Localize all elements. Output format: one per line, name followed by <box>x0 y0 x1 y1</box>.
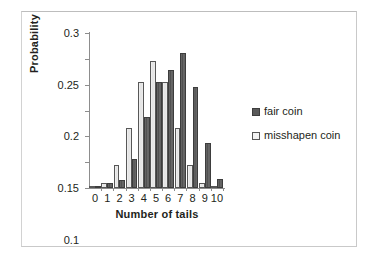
x-tick-label: 8 <box>189 193 195 204</box>
bar-fair-coin <box>107 183 113 188</box>
x-tick-label: 6 <box>165 193 171 204</box>
x-tick <box>174 188 175 191</box>
legend-swatch-icon-misshapen-coin <box>252 132 260 140</box>
x-axis-title: Number of tails <box>89 208 225 220</box>
y-tick-label: 0.2 <box>64 131 79 142</box>
x-tick <box>150 188 151 191</box>
x-tick <box>101 188 102 191</box>
legend-swatch-icon-fair-coin <box>252 108 260 116</box>
bar-fair-coin <box>193 87 199 188</box>
y-tick: 0.05 <box>85 162 89 163</box>
y-tick-label: 0.3 <box>64 28 79 39</box>
x-tick-label: 0 <box>92 193 98 204</box>
x-tick <box>211 188 212 191</box>
plot-area: 00.050.10.150.20.250.3 012345678910 <box>89 33 223 188</box>
y-tick: 0.3 <box>85 33 89 34</box>
y-axis-title: Probability <box>28 14 40 73</box>
bar-fair-coin <box>217 179 223 188</box>
bar-fair-coin <box>144 117 150 188</box>
x-tick-label: 3 <box>129 193 135 204</box>
y-tick: 0.25 <box>85 59 89 60</box>
bar-fair-coin <box>132 159 138 188</box>
legend-item-misshapen-coin: misshapen coin <box>252 130 340 141</box>
chart-figure: 00.050.10.150.20.250.3 012345678910 Prob… <box>0 0 379 263</box>
bar-fair-coin <box>119 180 125 188</box>
x-tick <box>223 188 224 191</box>
x-tick <box>162 188 163 191</box>
x-tick <box>186 188 187 191</box>
chart-legend: fair coin misshapen coin <box>252 106 340 154</box>
x-tick-label: 9 <box>202 193 208 204</box>
bar-fair-coin <box>95 186 101 188</box>
legend-label-misshapen-coin: misshapen coin <box>264 130 340 141</box>
x-tick <box>126 188 127 191</box>
x-tick <box>138 188 139 191</box>
x-tick <box>199 188 200 191</box>
x-tick-label: 4 <box>141 193 147 204</box>
bar-fair-coin <box>168 70 174 188</box>
x-axis-line <box>89 188 225 189</box>
y-tick-label: 0.15 <box>58 183 79 194</box>
y-tick: 0.15 <box>85 111 89 112</box>
y-tick-label: 0.25 <box>58 79 79 90</box>
x-tick-label: 10 <box>211 193 223 204</box>
y-tick: 0.1 <box>85 136 89 137</box>
y-tick: 0.2 <box>85 85 89 86</box>
x-tick-label: 7 <box>177 193 183 204</box>
bar-fair-coin <box>180 53 186 188</box>
x-tick-label: 2 <box>116 193 122 204</box>
legend-item-fair-coin: fair coin <box>252 106 340 117</box>
legend-label-fair-coin: fair coin <box>264 106 303 117</box>
bar-fair-coin <box>156 82 162 188</box>
y-tick: 0 <box>85 188 89 189</box>
bar-fair-coin <box>205 143 211 188</box>
x-tick-label: 5 <box>153 193 159 204</box>
y-tick-label: 0.1 <box>64 234 79 245</box>
x-tick-label: 1 <box>104 193 110 204</box>
x-tick <box>113 188 114 191</box>
